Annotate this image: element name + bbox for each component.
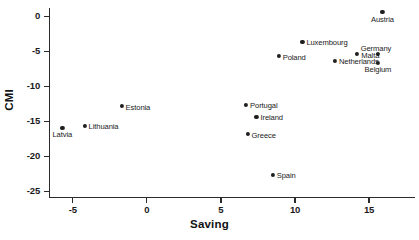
data-point-label: Portugal <box>250 101 277 110</box>
data-point-label: Belgium <box>365 65 392 74</box>
x-tick-label: 10 <box>290 204 300 215</box>
x-tick <box>368 198 369 203</box>
y-tick-label: -20 <box>27 150 40 161</box>
data-point-label: Lithuania <box>89 122 119 131</box>
x-tick <box>72 198 73 203</box>
x-tick <box>220 198 221 203</box>
x-tick <box>294 198 295 203</box>
data-point-label: Greece <box>252 130 276 139</box>
x-tick-label: 0 <box>144 204 149 215</box>
y-tick-label: -10 <box>27 80 40 91</box>
data-point-label: Spain <box>277 171 296 180</box>
data-point-label: Luxembourg <box>306 38 347 47</box>
scatter-plot-figure: 0-5-10-15-20-25 -5051015 Saving CMI Aust… <box>0 0 419 240</box>
y-tick-label: -25 <box>27 185 40 196</box>
x-tick-label: -5 <box>69 204 77 215</box>
data-point-label: Poland <box>283 52 306 61</box>
y-tick-label: -15 <box>27 115 40 126</box>
data-point-label: Ireland <box>260 113 283 122</box>
data-point-label: Austria <box>371 15 394 24</box>
data-point-label: Estonia <box>126 102 151 111</box>
x-tick-label: 5 <box>218 204 223 215</box>
y-tick-label: -5 <box>32 45 40 56</box>
y-tick-label: 0 <box>35 10 40 21</box>
x-axis-title: Saving <box>0 218 419 230</box>
plot-area <box>49 8 415 198</box>
x-tick-label: 15 <box>364 204 374 215</box>
data-point-label: Latvia <box>52 130 72 139</box>
y-axis-title: CMI <box>3 70 15 130</box>
x-tick <box>146 198 147 203</box>
